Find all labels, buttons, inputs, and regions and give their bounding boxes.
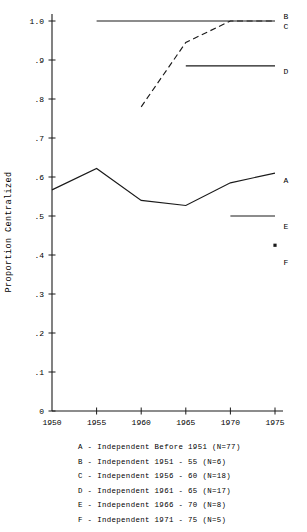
series-label-b: B [284, 12, 289, 21]
y-tick-label: 0 [39, 407, 44, 416]
legend-entry: A - Independent Before 1951 (N=77) [0, 440, 307, 455]
series-label-c: C [284, 22, 289, 31]
y-tick-label: .3 [34, 290, 44, 299]
y-tick-label: .2 [34, 329, 44, 338]
x-tick-label: 1960 [132, 418, 151, 427]
data-point-marker-f [273, 244, 276, 247]
legend-entry: D - Independent 1961 - 65 (N=17) [0, 484, 307, 499]
legend: A - Independent Before 1951 (N=77)B - In… [0, 440, 307, 527]
series-labels: ABCDEF [284, 12, 289, 267]
x-tick-label: 1975 [265, 418, 284, 427]
x-tick-label: 1970 [221, 418, 240, 427]
chart-container: 0.1.2.3.4.5.6.7.8.91.0 19501955196019651… [0, 0, 307, 440]
y-tick-label: .1 [34, 368, 44, 377]
line-chart: 0.1.2.3.4.5.6.7.8.91.0 19501955196019651… [0, 0, 307, 440]
chart-series [52, 21, 277, 247]
series-line-a [52, 168, 275, 205]
series-label-e: E [284, 222, 289, 231]
series-line-c [141, 21, 275, 107]
x-tick-label: 1950 [42, 418, 61, 427]
x-axis-ticks: 195019551960196519701975 [42, 408, 284, 428]
y-axis-title: Proportion Centralized [4, 171, 14, 292]
x-tick-label: 1955 [87, 418, 106, 427]
legend-entry: B - Independent 1951 - 55 (N=6) [0, 455, 307, 470]
y-tick-label: .5 [34, 212, 44, 221]
y-tick-label: .7 [34, 134, 44, 143]
y-tick-label: .8 [34, 95, 44, 104]
y-tick-label: .4 [34, 251, 44, 260]
series-label-d: D [284, 67, 289, 76]
legend-entry: F - Independent 1971 - 75 (N=5) [0, 513, 307, 528]
legend-entry: E - Independent 1966 - 70 (N=8) [0, 498, 307, 513]
legend-entry: C - Independent 1956 - 60 (N=18) [0, 469, 307, 484]
y-tick-label: .9 [34, 56, 44, 65]
y-tick-label: 1.0 [30, 17, 45, 26]
series-label-f: F [284, 258, 289, 267]
series-label-a: A [284, 176, 289, 185]
y-tick-label: .6 [34, 173, 44, 182]
x-tick-label: 1965 [176, 418, 195, 427]
chart-axes [52, 14, 283, 411]
